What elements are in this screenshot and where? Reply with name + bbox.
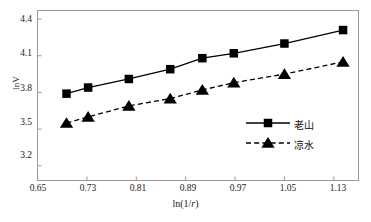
y-tick-label-3-2: 3.2 — [4, 150, 32, 160]
x-tick-label-1-13: 1.13 — [318, 183, 358, 193]
y-tick-label-4-1: 4.1 — [4, 48, 32, 58]
data-point-1-1 — [62, 89, 70, 98]
x-tick-label-1-05: 1.05 — [268, 183, 308, 193]
y-tick-label-3-5: 3.5 — [4, 117, 32, 127]
data-point-1-5 — [198, 54, 207, 63]
x-axis-title: ln(1/r) — [0, 198, 371, 209]
y-tick-label-4-4: 4.4 — [4, 14, 32, 24]
chart-figure: lnV ln(1/r) 3.2 3.5 3.8 4.1 4.4 0.65 0.7… — [0, 0, 371, 222]
data-point-1-3 — [125, 75, 134, 84]
x-axis-title-tail: ) — [195, 198, 198, 209]
data-point-1-8 — [339, 26, 348, 34]
data-point-1-2 — [84, 83, 93, 92]
x-tick-label-0-81: 0.81 — [118, 183, 158, 193]
legend-label-laoshan: 老山 — [294, 117, 314, 132]
x-axis-title-head: ln(1/ — [172, 198, 191, 209]
data-point-1-6 — [230, 49, 239, 58]
x-tick-label-0-97: 0.97 — [218, 183, 258, 193]
x-tick-label-0-73: 0.73 — [68, 183, 108, 193]
data-point-1-7 — [280, 39, 289, 48]
x-tick-label-0-89: 0.89 — [168, 183, 208, 193]
x-tick-label-0-65: 0.65 — [18, 183, 58, 193]
y-tick-label-3-8: 3.8 — [4, 83, 32, 93]
legend-label-liangshui: 凉水 — [294, 137, 314, 152]
data-point-1-4 — [166, 65, 175, 74]
legend-marker-1 — [264, 119, 273, 128]
plot-frame — [38, 11, 359, 181]
